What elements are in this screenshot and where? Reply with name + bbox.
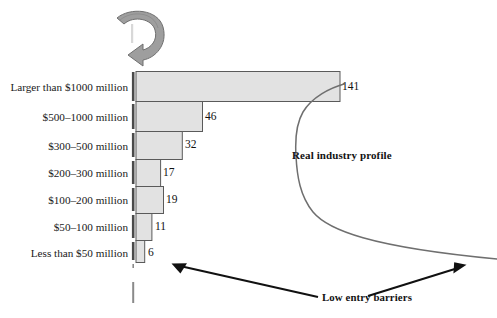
bar-100-200m [136,187,164,214]
category-label-2: $300–500 million [0,141,128,152]
category-label-4: $100–200 million [0,195,128,206]
value-label-0: 141 [342,81,359,93]
category-label-3: $200–300 million [0,168,128,179]
bar-200-300m [136,160,161,187]
low-entry-barriers-arrows [172,262,467,297]
category-label-5: $50–100 million [0,222,128,233]
bar-larger-than-1000m [136,72,340,102]
category-label-6: Less than $50 million [0,248,128,259]
value-label-5: 11 [155,221,166,233]
bar-less-than-50m [136,241,145,263]
category-label-1: $500–1000 million [0,112,128,123]
value-label-1: 46 [205,111,217,123]
low-entry-barriers-label: Low entry barriers [322,292,412,303]
value-label-6: 6 [148,247,154,259]
value-label-2: 32 [185,139,197,151]
real-industry-profile-label: Real industry profile [292,150,392,161]
value-label-3: 17 [163,167,175,179]
value-label-4: 19 [166,194,178,206]
bar-50-100m [136,214,152,241]
category-label-0: Larger than $1000 million [0,82,128,93]
rotation-arrow-icon [117,11,164,66]
bar-500-1000m [136,102,203,132]
real-industry-profile-curve [296,84,497,259]
bar-300-500m [136,132,182,160]
chart-graphics [0,0,497,318]
chart-canvas: Larger than $1000 million $500–1000 mill… [0,0,497,318]
